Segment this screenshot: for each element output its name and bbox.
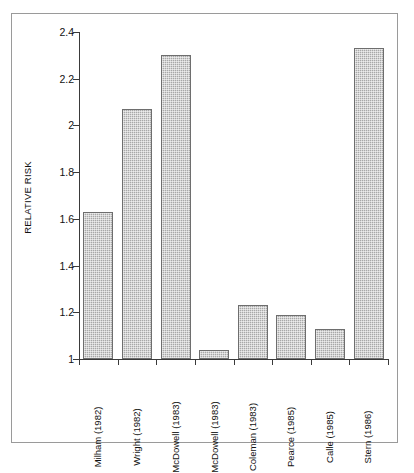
x-tick-mark: [195, 359, 196, 365]
x-tick-label: Wright (1982): [118, 366, 157, 442]
y-tick-label: 1.4: [40, 261, 74, 271]
x-tick-mark: [388, 359, 389, 365]
x-tick-label-text: McDowell (1983): [171, 401, 181, 472]
y-tick-label: 2.2: [40, 74, 74, 84]
chart-frame: RELATIVE RISK 11.21.41.61.822.22.4 Milha…: [11, 13, 398, 443]
y-tick-label: 1: [40, 354, 74, 364]
y-tick-label: 1.8: [40, 167, 74, 177]
y-tick-label: 1.6: [40, 214, 74, 224]
bar: [315, 329, 345, 359]
y-tick-label: 2.4: [40, 27, 74, 37]
x-tick-mark: [349, 359, 350, 365]
x-tick-label-text: Coleman (1983): [248, 403, 258, 471]
y-axis-title-text: RELATIVE RISK: [22, 161, 33, 234]
x-tick-label: Calle (1985): [311, 366, 350, 442]
x-tick-mark: [118, 359, 119, 365]
bar: [83, 212, 113, 359]
x-tick-label: Milham (1982): [79, 366, 118, 442]
x-axis-tick-labels: Milham (1982)Wright (1982)McDowell (1983…: [79, 366, 388, 442]
bar: [161, 55, 191, 359]
y-tick-mark: [73, 266, 79, 267]
x-tick-mark: [272, 359, 273, 365]
bar: [354, 48, 384, 359]
y-tick-mark: [73, 125, 79, 126]
bar: [238, 305, 268, 359]
x-tick-mark: [311, 359, 312, 365]
y-tick-label: 2: [40, 120, 74, 130]
x-tick-label-text: Wright (1982): [132, 408, 142, 465]
y-tick-mark: [73, 79, 79, 80]
bar: [199, 350, 229, 359]
x-tick-label: Coleman (1983): [234, 366, 273, 442]
x-tick-label: Pearce (1985): [272, 366, 311, 442]
y-axis-tick-labels: 11.21.41.61.822.22.4: [32, 14, 74, 442]
plot-area: RELATIVE RISK 11.21.41.61.822.22.4 Milha…: [12, 14, 397, 442]
x-tick-label-text: Milham (1982): [93, 407, 103, 468]
y-tick-mark: [73, 32, 79, 33]
x-tick-mark: [79, 359, 80, 365]
x-tick-label-text: Pearce (1985): [286, 407, 296, 467]
x-tick-label-text: Calle (1985): [325, 411, 335, 463]
x-tick-mark: [156, 359, 157, 365]
y-tick-label: 1.2: [40, 307, 74, 317]
bars-layer: [79, 32, 388, 359]
bar: [122, 109, 152, 359]
x-tick-label-text: McDowell (1983): [209, 401, 219, 472]
y-tick-mark: [73, 312, 79, 313]
y-tick-mark: [73, 219, 79, 220]
x-tick-mark: [234, 359, 235, 365]
x-tick-label: Stern (1986): [349, 366, 388, 442]
x-tick-label-text: Stern (1986): [364, 411, 374, 464]
x-tick-label: McDowell (1983): [195, 366, 234, 442]
bar: [276, 315, 306, 359]
y-tick-mark: [73, 172, 79, 173]
x-tick-label: McDowell (1983): [156, 366, 195, 442]
